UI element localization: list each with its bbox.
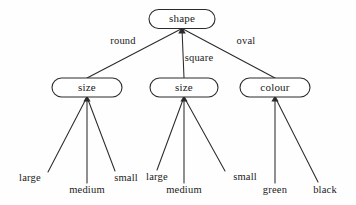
leaf-label-small-square: small xyxy=(233,171,257,182)
edge-small-square xyxy=(184,97,225,171)
leaf-edges-group xyxy=(48,97,318,183)
leaf-label-large-round: large xyxy=(19,172,41,183)
leaf-label-small-round: small xyxy=(114,172,138,183)
colour-oval-label: colour xyxy=(260,81,289,93)
leaf-label-green-colour: green xyxy=(263,184,288,195)
edge-large-round xyxy=(48,97,87,172)
node-shape-root[interactable]: shape xyxy=(149,10,215,29)
node-size-round[interactable]: size xyxy=(52,78,122,97)
edge-small-round xyxy=(87,97,115,171)
edge-label-square: square xyxy=(185,52,214,63)
edge-square xyxy=(182,29,184,79)
size-square-label: size xyxy=(175,81,193,93)
diagram-canvas: shape size size colour round square oval… xyxy=(0,0,356,205)
leaf-label-medium-square: medium xyxy=(166,184,202,195)
node-colour-oval[interactable]: colour xyxy=(240,78,310,97)
leaf-labels-group: large medium small large medium small gr… xyxy=(19,171,337,195)
decision-tree-diagram: shape size size colour round square oval… xyxy=(0,0,356,205)
size-round-label: size xyxy=(78,81,96,93)
edge-label-oval: oval xyxy=(237,35,256,46)
edge-label-round: round xyxy=(110,35,136,46)
leaf-label-large-square: large xyxy=(146,171,168,182)
edge-large-square xyxy=(157,97,184,170)
leaf-label-medium-round: medium xyxy=(69,184,105,195)
edge-black-colour xyxy=(275,97,318,182)
node-size-square[interactable]: size xyxy=(150,78,218,97)
root-node-label: shape xyxy=(169,12,195,24)
leaf-label-black-colour: black xyxy=(313,184,337,195)
